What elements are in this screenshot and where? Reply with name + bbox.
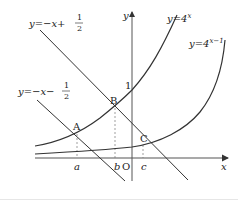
curve-4-pow-x [35, 15, 177, 146]
label-line-minus-num: 1 [64, 81, 69, 90]
point-b-label: B [110, 95, 117, 106]
label-4-pow-x-minus-1: y=4x−1 [188, 37, 224, 49]
tick-b: b [114, 161, 120, 172]
origin-label: O [122, 161, 130, 172]
label-line-plus-den: 2 [77, 24, 82, 33]
label-line-minus: y=−x− [17, 86, 54, 97]
bottom-divider [0, 199, 238, 200]
tick-c: c [141, 161, 147, 172]
y-axis-label: y [122, 10, 129, 21]
y-tick-1: 1 [125, 80, 131, 91]
point-a-label: A [72, 121, 81, 132]
label-line-minus-den: 2 [64, 92, 69, 101]
graph-figure: A B C a b c O x y 1 y=4x y=4x−1 y=−x+ 1 … [0, 0, 238, 201]
point-c-label: C [140, 133, 148, 144]
tick-a: a [74, 161, 80, 172]
label-line-plus-num: 1 [77, 13, 82, 22]
label-4-pow-x: y=4x [166, 12, 191, 24]
x-axis-label: x [221, 161, 227, 172]
label-line-plus: y=−x+ [28, 18, 65, 29]
line-neg-x-minus-half [37, 100, 125, 181]
